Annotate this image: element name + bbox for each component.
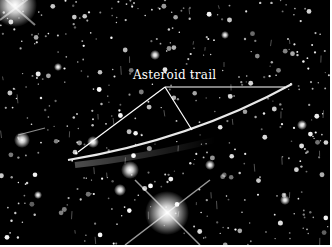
- star-field-image: Asteroid trail: [0, 0, 330, 245]
- annotation-label: Asteroid trail: [133, 68, 216, 82]
- star-field: [0, 0, 330, 245]
- annotation-lines: [78, 87, 285, 152]
